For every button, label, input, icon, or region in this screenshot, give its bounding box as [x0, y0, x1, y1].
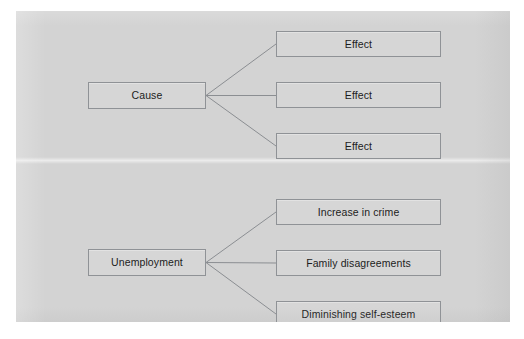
- node-cause[interactable]: Cause: [88, 82, 206, 109]
- diagram-canvas: Cause Effect Effect Effect Unemployment …: [16, 11, 510, 322]
- node-diminishing-self-esteem[interactable]: Diminishing self-esteem: [276, 301, 441, 322]
- connector-cause-effect-1: [206, 44, 276, 96]
- node-family-disagreements[interactable]: Family disagreements: [276, 250, 441, 276]
- connector-cause-effect-3: [206, 96, 276, 147]
- node-effect-2-label: Effect: [345, 90, 372, 101]
- node-cause-label: Cause: [132, 90, 163, 101]
- node-effect-1[interactable]: Effect: [276, 31, 441, 57]
- node-unemployment-label: Unemployment: [111, 257, 183, 268]
- node-effect-3[interactable]: Effect: [276, 133, 441, 159]
- connector-unemployment-effect-2: [206, 263, 276, 264]
- node-effect-2[interactable]: Effect: [276, 82, 441, 108]
- node-unemployment[interactable]: Unemployment: [88, 249, 206, 276]
- node-increase-in-crime-label: Increase in crime: [318, 207, 400, 218]
- screenshot-root: Cause Effect Effect Effect Unemployment …: [0, 0, 524, 339]
- node-diminishing-self-esteem-label: Diminishing self-esteem: [302, 309, 416, 320]
- node-effect-3-label: Effect: [345, 141, 372, 152]
- connector-unemployment-effect-1: [206, 212, 276, 263]
- connector-unemployment-effect-3: [206, 263, 276, 315]
- node-family-disagreements-label: Family disagreements: [306, 258, 411, 269]
- node-increase-in-crime[interactable]: Increase in crime: [276, 199, 441, 225]
- node-effect-1-label: Effect: [345, 39, 372, 50]
